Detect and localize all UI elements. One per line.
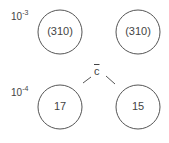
row-label-top-base: 10 — [11, 11, 22, 22]
row-label-bottom-base: 10 — [11, 87, 22, 98]
row-label-top-exponent: -3 — [22, 9, 28, 16]
node-label-top-right: (310) — [116, 25, 160, 37]
connector-line-left — [83, 77, 91, 83]
node-label-bottom-right: 15 — [116, 100, 160, 112]
connector-line-right — [106, 76, 115, 84]
node-label-top-left: (310) — [38, 25, 82, 37]
row-label-top: 10-3 — [11, 11, 28, 22]
connector-label-cbar: c — [94, 65, 100, 77]
node-label-bottom-left: 17 — [38, 100, 82, 112]
row-label-bottom: 10-4 — [11, 87, 28, 98]
row-label-bottom-exponent: -4 — [22, 85, 28, 92]
